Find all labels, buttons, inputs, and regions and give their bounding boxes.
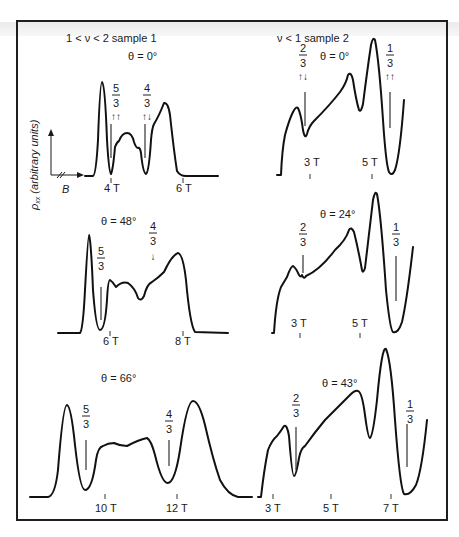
angle-label: θ = 66°: [101, 372, 136, 384]
tick-label: 5 T: [362, 156, 378, 168]
angle-label: θ = 0°: [128, 50, 157, 62]
fraction-numerator: 5: [113, 82, 119, 94]
fraction-denominator: 3: [113, 97, 119, 109]
fraction-denominator: 3: [166, 423, 172, 435]
tick-label: 12 T: [166, 502, 188, 514]
panel-2: θ = 0°3 T5 T23↑↓13↑↑: [277, 39, 404, 179]
fraction-denominator: 3: [407, 413, 413, 425]
fraction-numerator: 5: [98, 245, 104, 257]
tick-label: 6 T: [176, 182, 192, 194]
fraction-denominator: 3: [393, 236, 399, 248]
fraction-numerator: 5: [83, 403, 89, 415]
rho-xx-curve: [30, 401, 252, 497]
axes-arrows-icon: B: [48, 129, 84, 195]
fraction-numerator: 1: [407, 398, 413, 410]
tick-label: 6 T: [103, 335, 119, 347]
fraction-denominator: 3: [293, 407, 299, 419]
spin-arrows-icon: ↑↓: [298, 71, 308, 82]
fraction-denominator: 3: [300, 57, 306, 69]
fraction-numerator: 2: [300, 42, 306, 54]
panels: θ = 0°4 T6 T53↑↑43↑↓θ = 0°3 T5 T23↑↓13↑↑…: [30, 39, 427, 514]
rho-xx-curve: [258, 349, 427, 497]
panel-4: θ = 24°3 T5 T2313: [272, 193, 413, 338]
tick-label: 10 T: [95, 502, 117, 514]
column-title: 1 < ν < 2 sample 1: [66, 32, 157, 44]
tick-label: 7 T: [383, 502, 399, 514]
filling-factor-annotation: 43↓: [149, 220, 157, 262]
svg-text:B: B: [62, 183, 69, 195]
column-title: ν < 1 sample 2: [277, 32, 349, 44]
fraction-denominator: 3: [98, 260, 104, 272]
rho-xx-curve: [58, 235, 228, 333]
filling-factor-annotation: 43: [165, 408, 173, 466]
angle-label: θ = 48°: [101, 215, 136, 227]
tick-label: 5 T: [352, 317, 368, 329]
fraction-denominator: 3: [387, 57, 393, 69]
panel-5: θ = 66°10 T12 T5343: [30, 372, 252, 514]
fraction-numerator: 4: [144, 82, 150, 94]
filling-factor-annotation: 53: [82, 403, 90, 470]
fraction-numerator: 4: [150, 220, 156, 232]
tick-label: 3 T: [304, 156, 320, 168]
filling-factor-annotation: 23: [299, 221, 307, 273]
y-axis-label: ρxx (arbitrary units): [28, 119, 41, 211]
filling-factor-annotation: 13: [392, 221, 400, 301]
angle-label: θ = 43°: [322, 377, 357, 389]
fraction-numerator: 2: [300, 221, 306, 233]
angle-label: θ = 24°: [320, 208, 355, 220]
panel-3: θ = 48°6 T8 T5343↓: [58, 215, 228, 347]
panel-6: θ = 43°3 T5 T7 T2313: [258, 349, 427, 514]
fraction-numerator: 1: [387, 42, 393, 54]
angle-label: θ = 0°: [320, 50, 349, 62]
arrow-down-icon: ↓: [151, 251, 156, 262]
spin-arrows-icon: ↑↓: [142, 111, 152, 122]
column-titles: 1 < ν < 2 sample 1ν < 1 sample 2: [66, 32, 349, 44]
tick-label: 8 T: [175, 335, 191, 347]
tick-label: 5 T: [323, 502, 339, 514]
fraction-numerator: 2: [293, 392, 299, 404]
rho-xx-curve: [85, 82, 218, 176]
fraction-numerator: 4: [166, 408, 172, 420]
panel-1: θ = 0°4 T6 T53↑↑43↑↓: [85, 50, 218, 194]
fraction-denominator: 3: [300, 236, 306, 248]
fraction-denominator: 3: [150, 235, 156, 247]
fraction-numerator: 1: [393, 221, 399, 233]
filling-factor-annotation: 13↑↑: [385, 42, 395, 128]
tick-label: 4 T: [104, 182, 120, 194]
filling-factor-annotation: 13: [406, 398, 414, 467]
fraction-denominator: 3: [83, 418, 89, 430]
filling-factor-annotation: 53: [97, 245, 105, 320]
figure: 1 < ν < 2 sample 1ν < 1 sample 2 ρxx (ar…: [0, 0, 459, 537]
tick-label: 3 T: [265, 502, 281, 514]
spin-arrows-icon: ↑↑: [111, 111, 121, 122]
fraction-denominator: 3: [144, 97, 150, 109]
tick-label: 3 T: [291, 317, 307, 329]
spin-arrows-icon: ↑↑: [385, 71, 395, 82]
svg-text:ρxx (arbitrary units): ρxx (arbitrary units): [28, 119, 41, 211]
